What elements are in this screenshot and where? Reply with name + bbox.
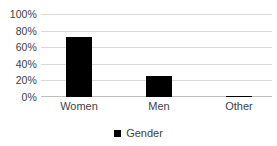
bar-women bbox=[66, 37, 92, 97]
x-tick-label-men: Men bbox=[148, 100, 169, 112]
bar-chart: 100% 80% 60% 40% 20% 0% Women Men Other … bbox=[0, 0, 277, 146]
bar-other bbox=[226, 96, 252, 98]
legend-entry-label: Gender bbox=[126, 127, 163, 139]
y-tick-label: 0% bbox=[0, 91, 37, 103]
bar-men bbox=[146, 76, 172, 97]
gridline-80 bbox=[41, 31, 272, 32]
y-tick-label: 80% bbox=[0, 25, 37, 37]
y-tick-label: 20% bbox=[0, 74, 37, 86]
chart-legend: Gender bbox=[0, 124, 277, 142]
x-tick-label-women: Women bbox=[60, 100, 98, 112]
x-axis-tick-labels: Women Men Other bbox=[41, 100, 272, 118]
plot-area bbox=[41, 14, 272, 97]
gridline-100 bbox=[41, 14, 272, 15]
legend-square-icon bbox=[114, 130, 121, 137]
y-tick-label: 40% bbox=[0, 58, 37, 70]
y-tick-label: 100% bbox=[0, 8, 37, 20]
y-tick-label: 60% bbox=[0, 41, 37, 53]
x-tick-label-other: Other bbox=[225, 100, 253, 112]
